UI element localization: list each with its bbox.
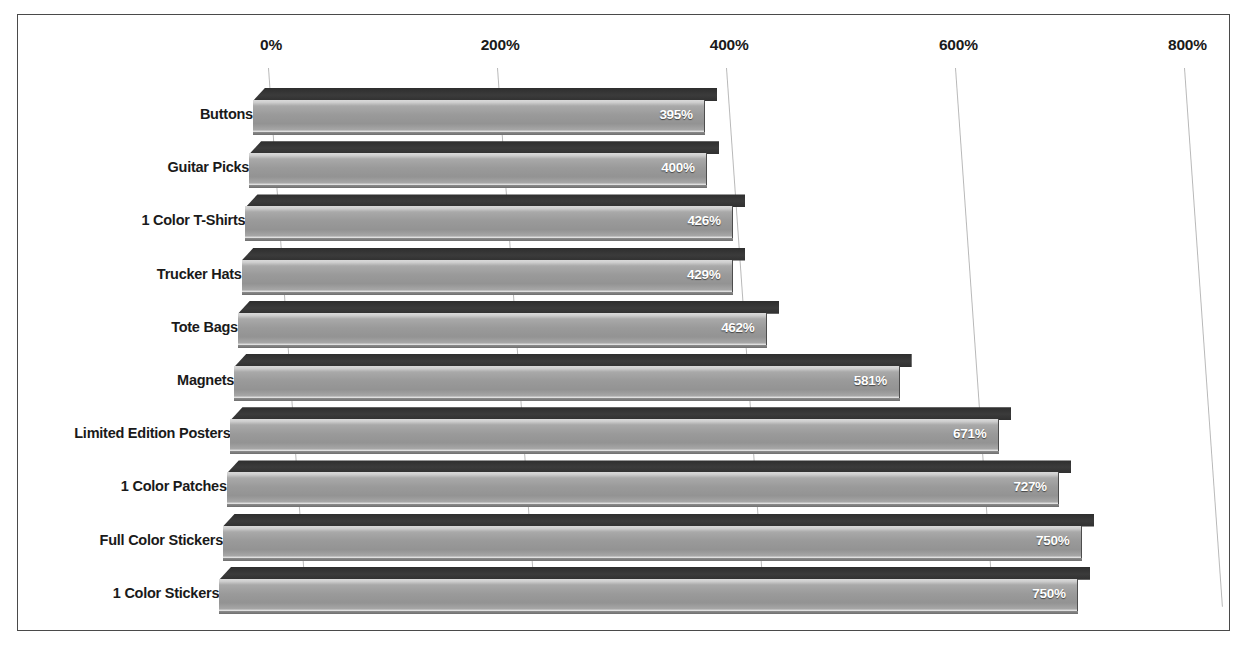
- bar-base-edge: [253, 132, 705, 135]
- category-label: 1 Color Patches: [0, 478, 227, 494]
- bar-row[interactable]: Limited Edition Posters671%: [0, 407, 1247, 460]
- bar-row[interactable]: Magnets581%: [0, 354, 1247, 407]
- bar-base-edge: [219, 611, 1078, 614]
- bar-row[interactable]: 1 Color Patches727%: [0, 460, 1247, 513]
- bar-value-label: 581%: [854, 373, 887, 388]
- bar[interactable]: [230, 407, 1011, 454]
- bar-value-label: 400%: [661, 160, 694, 175]
- x-tick-label: 600%: [939, 36, 978, 54]
- bar-base-edge: [234, 398, 900, 401]
- plot-area: 0%200%400%600%800% Buttons395%Guitar Pic…: [0, 0, 1247, 667]
- bar-value-label: 750%: [1036, 533, 1069, 548]
- bar-front-face: [230, 419, 999, 452]
- bar-value-label: 750%: [1032, 586, 1065, 601]
- category-label: Guitar Picks: [0, 159, 249, 175]
- bar-front-face: [242, 260, 733, 293]
- bar-value-label: 395%: [659, 107, 692, 122]
- bar[interactable]: [238, 301, 779, 348]
- bar-base-edge: [223, 558, 1082, 561]
- bar-value-label: 671%: [953, 426, 986, 441]
- bar-base-edge: [249, 185, 707, 188]
- bar-value-label: 429%: [687, 267, 720, 282]
- x-tick-label: 0%: [260, 36, 282, 54]
- category-label: Tote Bags: [0, 319, 238, 335]
- bar-row[interactable]: Tote Bags462%: [0, 301, 1247, 354]
- bar-front-face: [223, 526, 1082, 559]
- bar-base-edge: [227, 504, 1060, 507]
- bar-value-label: 462%: [721, 320, 754, 335]
- bar-row[interactable]: Trucker Hats429%: [0, 248, 1247, 301]
- bar[interactable]: [242, 248, 745, 295]
- x-tick-label: 800%: [1168, 36, 1207, 54]
- bar-front-face: [234, 366, 900, 399]
- bar[interactable]: [249, 141, 719, 188]
- bar[interactable]: [245, 194, 745, 241]
- x-tick-label: 200%: [481, 36, 520, 54]
- bar-base-edge: [242, 292, 733, 295]
- x-tick-label: 400%: [710, 36, 749, 54]
- category-label: 1 Color T-Shirts: [0, 212, 245, 228]
- bar-row[interactable]: Full Color Stickers750%: [0, 514, 1247, 567]
- bar-front-face: [245, 206, 733, 239]
- chart-container: 0%200%400%600%800% Buttons395%Guitar Pic…: [0, 0, 1247, 667]
- bar-value-label: 727%: [1013, 479, 1046, 494]
- bar-front-face: [253, 100, 705, 133]
- bar[interactable]: [227, 460, 1072, 507]
- bar-front-face: [219, 579, 1078, 612]
- bar[interactable]: [253, 88, 717, 135]
- bar-row[interactable]: 1 Color T-Shirts426%: [0, 194, 1247, 247]
- bar-base-edge: [238, 345, 767, 348]
- category-label: Buttons: [1, 106, 253, 122]
- bar-row[interactable]: Buttons395%: [0, 88, 1247, 141]
- bar[interactable]: [223, 514, 1094, 561]
- bar-row[interactable]: Guitar Picks400%: [0, 141, 1247, 194]
- bar-value-label: 426%: [687, 213, 720, 228]
- category-label: Limited Edition Posters: [0, 425, 230, 441]
- bar-base-edge: [245, 238, 733, 241]
- bar-front-face: [249, 153, 707, 186]
- category-label: Trucker Hats: [0, 266, 242, 282]
- category-label: Magnets: [0, 372, 234, 388]
- bar[interactable]: [219, 567, 1090, 614]
- bar-base-edge: [230, 451, 999, 454]
- bar-row[interactable]: 1 Color Stickers750%: [0, 567, 1247, 620]
- bar[interactable]: [234, 354, 912, 401]
- category-label: Full Color Stickers: [0, 532, 223, 548]
- bar-front-face: [238, 313, 767, 346]
- bar-front-face: [227, 472, 1060, 505]
- category-label: 1 Color Stickers: [0, 585, 219, 601]
